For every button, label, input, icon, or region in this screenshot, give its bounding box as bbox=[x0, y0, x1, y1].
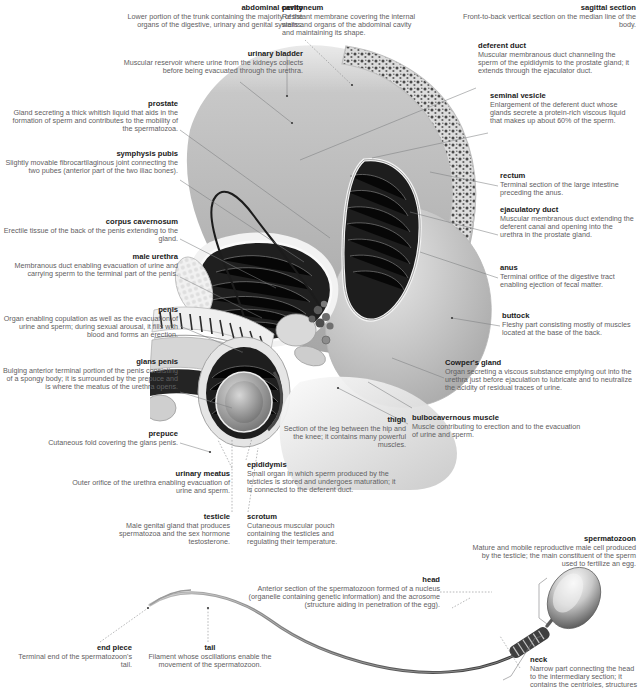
label-description-penis: Organ enabling copulation as well as the… bbox=[0, 315, 178, 339]
label-male-urethra: male urethraMembranous duct enabling eva… bbox=[12, 253, 178, 278]
label-description-spermatozoon: Mature and mobile reproductive male cell… bbox=[468, 544, 636, 568]
label-scrotum: scrotumCutaneous muscular pouch containi… bbox=[247, 513, 367, 546]
label-description-prepuce: Cutaneous fold covering the glans penis. bbox=[16, 439, 178, 447]
label-end-piece: end pieceTerminal end of the spermatozoo… bbox=[10, 644, 132, 669]
label-description-end-piece: Terminal end of the spermatozoon's tail. bbox=[10, 653, 132, 669]
label-head: headAnterior section of the spermatozoon… bbox=[240, 576, 440, 609]
scrotum-and-testicle bbox=[198, 337, 290, 447]
label-description-bulbocavernous-muscle: Muscle contributing to erection and to t… bbox=[412, 423, 582, 439]
label-penis: penisOrgan enabling copulation as well a… bbox=[0, 306, 178, 339]
label-peritoneum: peritoneumResistant membrane covering th… bbox=[282, 4, 424, 37]
label-description-corpus-cavernosum: Erectile tissue of the back of the penis… bbox=[0, 227, 178, 243]
label-description-glans-penis: Bulging anterior terminal portion of the… bbox=[0, 367, 178, 391]
label-description-urinary-meatus: Outer orifice of the urethra enabling ev… bbox=[62, 479, 230, 495]
label-urinary-bladder: urinary bladderMuscular reservoir where … bbox=[122, 50, 303, 75]
label-description-head: Anterior section of the spermatozoon for… bbox=[240, 585, 440, 609]
label-neck: neckNarrow part connecting the head to t… bbox=[530, 656, 640, 689]
label-description-seminal-vesicle: Enlargement of the deferent duct whose g… bbox=[490, 101, 636, 125]
label-prepuce: prepuceCutaneous fold covering the glans… bbox=[16, 430, 178, 447]
label-seminal-vesicle: seminal vesicleEnlargement of the defere… bbox=[490, 92, 636, 125]
label-epididymis: epididymisSmall organ in which sperm pro… bbox=[247, 461, 399, 494]
label-cowpers-gland: Cowper's glandOrgan secreting a viscous … bbox=[445, 359, 636, 392]
label-description-neck: Narrow part connecting the head to the i… bbox=[530, 665, 640, 689]
label-prostate: prostateGland secreting a thick whitish … bbox=[8, 100, 178, 133]
label-anus: anusTerminal orifice of the digestive tr… bbox=[500, 264, 636, 289]
cowpers-gland-nodule bbox=[322, 336, 330, 344]
label-description-rectum: Terminal section of the large intestine … bbox=[500, 181, 636, 197]
label-abdominal-cavity: abdominal cavityLower portion of the tru… bbox=[118, 4, 303, 29]
label-buttock: buttockFleshy part consisting mostly of … bbox=[502, 312, 636, 337]
label-description-prostate: Gland secreting a thick whitish liquid t… bbox=[8, 109, 178, 133]
label-description-anus: Terminal orifice of the digestive tract … bbox=[500, 273, 636, 289]
label-description-testicle: Male genital gland that produces spermat… bbox=[84, 522, 230, 546]
label-description-thigh: Section of the leg between the hip and t… bbox=[278, 425, 406, 449]
label-urinary-meatus: urinary meatusOuter orifice of the ureth… bbox=[62, 470, 230, 495]
head-bracket bbox=[539, 578, 547, 624]
label-thigh: thighSection of the leg between the hip … bbox=[278, 416, 406, 449]
label-ejaculatory-duct: ejaculatory ductMuscular membranous duct… bbox=[500, 206, 636, 239]
label-description-cowpers-gland: Organ secreting a viscous substance empt… bbox=[445, 368, 636, 392]
label-tail: tailFilament whose oscillations enable t… bbox=[140, 644, 280, 669]
label-description-ejaculatory-duct: Muscular membranous duct extending the d… bbox=[500, 215, 636, 239]
label-corpus-cavernosum: corpus cavernosumErectile tissue of the … bbox=[0, 218, 178, 243]
label-description-tail: Filament whose oscillations enable the m… bbox=[140, 653, 280, 669]
label-deferent-duct: deferent ductMuscular membranous duct ch… bbox=[478, 42, 636, 75]
label-description-sagittal-section: Front-to-back vertical section on the me… bbox=[450, 13, 636, 29]
label-description-scrotum: Cutaneous muscular pouch containing the … bbox=[247, 522, 367, 546]
label-description-urinary-bladder: Muscular reservoir where urine from the … bbox=[122, 59, 303, 75]
label-rectum: rectumTerminal section of the large inte… bbox=[500, 172, 636, 197]
glans-penis bbox=[150, 395, 176, 421]
label-bulbocavernous-muscle: bulbocavernous muscleMuscle contributing… bbox=[412, 414, 582, 439]
label-description-abdominal-cavity: Lower portion of the trunk containing th… bbox=[118, 13, 303, 29]
label-description-symphysis-pubis: Slightly movable fibrocartilaginous join… bbox=[0, 159, 178, 175]
label-description-buttock: Fleshy part consisting mostly of muscles… bbox=[502, 321, 636, 337]
label-testicle: testicleMale genital gland that produces… bbox=[84, 513, 230, 546]
label-symphysis-pubis: symphysis pubisSlightly movable fibrocar… bbox=[0, 150, 178, 175]
label-spermatozoon: spermatozoonMature and mobile reproducti… bbox=[468, 535, 636, 568]
label-description-peritoneum: Resistant membrane covering the internal… bbox=[282, 13, 424, 37]
label-description-male-urethra: Membranous duct enabling evacuation of u… bbox=[12, 262, 178, 278]
label-description-deferent-duct: Muscular membranous duct channeling the … bbox=[478, 51, 636, 75]
label-sagittal-section: sagittal sectionFront-to-back vertical s… bbox=[450, 4, 636, 29]
label-description-epididymis: Small organ in which sperm produced by t… bbox=[247, 470, 399, 494]
label-glans-penis: glans penisBulging anterior terminal por… bbox=[0, 358, 178, 391]
